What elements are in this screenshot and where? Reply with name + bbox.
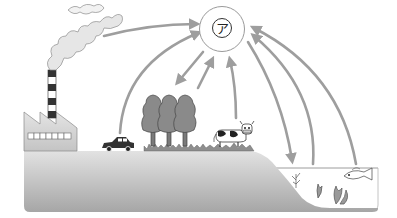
arrow-center-to-trees xyxy=(178,52,203,82)
smoke xyxy=(47,4,122,70)
arrow-trees-to-center xyxy=(198,60,212,88)
smokestack xyxy=(48,70,56,118)
center-label-circle: ア xyxy=(199,6,245,52)
car xyxy=(102,137,134,152)
arrow-cow-to-center xyxy=(230,60,236,118)
factory xyxy=(24,70,77,151)
carbon-cycle-diagram: ア xyxy=(0,0,397,218)
arrow-plants-to-center xyxy=(254,36,313,164)
center-label: ア xyxy=(212,18,232,38)
trees xyxy=(142,95,196,146)
arrow-center-to-water xyxy=(248,42,292,160)
